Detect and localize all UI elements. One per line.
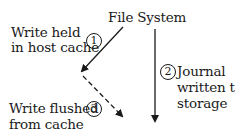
step-2-label-line1: Journal <box>177 64 225 79</box>
step-3-label-line1: Write flushed <box>9 101 98 116</box>
step-1-label-line1: Write held <box>11 25 80 40</box>
file-system-title: File System <box>108 10 186 25</box>
step-2-label-line3: storage <box>177 96 227 111</box>
step-3-label-line2: from cache <box>9 117 84 132</box>
step-3-number-badge: 3 <box>86 101 102 117</box>
step-2-number-badge: 2 <box>160 64 176 80</box>
step-1-number-badge: 1 <box>86 33 102 49</box>
step-2-label-line2: written to <box>177 80 235 95</box>
